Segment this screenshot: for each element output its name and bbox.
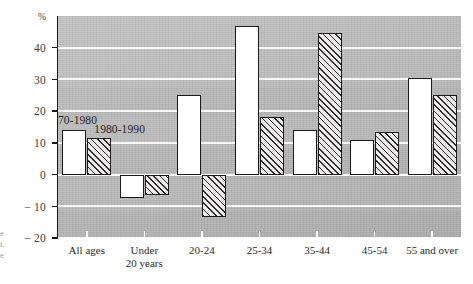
y-tick-group: 0: [51, 174, 58, 176]
edge-caption-line-1: e: [0, 228, 14, 239]
x-axis-label-35-44: 35-44: [304, 244, 330, 257]
y-axis-unit-label: %: [38, 12, 46, 22]
y-tick-label-10: 10: [34, 137, 46, 149]
bar-1970-1980-55 and over: [408, 78, 432, 175]
legend-item-1980-1990: 1980-1990: [94, 123, 145, 135]
x-axis-label-All ages: All ages: [69, 244, 105, 257]
bar-1970-1980-35-44: [293, 130, 317, 174]
bar-1980-1990-20-24: [202, 175, 226, 218]
x-axis-label-20-24: 20-24: [189, 244, 215, 257]
plot-band: [58, 16, 461, 87]
x-axis-label-group: 55 and over: [406, 244, 458, 257]
gridline-20: [58, 110, 461, 112]
x-axis-label-group: 20-24: [189, 244, 215, 257]
x-tick-25-34: [259, 231, 261, 238]
x-tick-55 and over: [431, 231, 433, 238]
gridline-40: [58, 47, 461, 49]
bar-1980-1990-Under 20 years: [145, 175, 169, 196]
bar-1980-1990-25-34: [260, 117, 284, 174]
x-axis-label-25-34: 25-34: [247, 244, 273, 257]
y-tick-group: 40: [51, 47, 58, 49]
x-axis-label-Under 20 years-line2: 20 years: [126, 257, 163, 270]
y-tick-label-20: 20: [34, 105, 46, 117]
bar-1970-1980-25-34: [235, 26, 259, 175]
bar-1970-1980-20-24: [177, 95, 201, 174]
y-tick-group: 20: [51, 110, 58, 112]
x-axis-label-group: 45-54: [362, 244, 388, 257]
y-tick-label-0: 0: [40, 169, 46, 181]
x-tick-45-54: [374, 231, 376, 238]
x-axis-label-Under 20 years: Under: [126, 244, 163, 257]
x-tick-All ages: [86, 231, 88, 238]
x-tick-Under 20 years: [144, 231, 146, 238]
x-axis-label-55 and over: 55 and over: [406, 244, 458, 257]
bar-1980-1990-35-44: [318, 33, 342, 174]
bar-1980-1990-55 and over: [433, 95, 457, 174]
edge-caption-line-2: t.: [0, 239, 14, 250]
gridline-30: [58, 78, 461, 80]
bar-chart-figure: 403020100− 10− 20% 1970-1980 1980-1990 A…: [0, 0, 473, 284]
y-tick-group: 30: [51, 79, 58, 81]
y-tick-label-40: 40: [34, 42, 46, 54]
y-tick-group: − 10: [51, 206, 58, 208]
y-tick-group: − 20: [51, 237, 58, 239]
bar-1980-1990-45-54: [375, 132, 399, 175]
bar-1970-1980-45-54: [350, 140, 374, 175]
y-tick-group: 10: [51, 142, 58, 144]
gridline--10: [58, 205, 461, 207]
x-tick-20-24: [201, 231, 203, 238]
y-tick-label--20: − 20: [24, 232, 46, 244]
y-tick-label-30: 30: [34, 74, 46, 86]
edge-caption-fragment: e t. e: [0, 228, 14, 261]
y-tick-label--10: − 10: [24, 201, 46, 213]
bar-1970-1980-Under 20 years: [120, 175, 144, 199]
bar-1980-1990-All ages: [87, 138, 111, 174]
x-axis-label-group: 35-44: [304, 244, 330, 257]
x-axis-label-group: 25-34: [247, 244, 273, 257]
bar-1970-1980-All ages: [62, 130, 86, 174]
x-tick-35-44: [316, 231, 318, 238]
plot-area: 1970-1980 1980-1990: [58, 16, 461, 238]
x-axis-label-group: All ages: [69, 244, 105, 257]
legend-item-1970-1980: 1970-1980: [58, 114, 97, 126]
edge-caption-line-3: e: [0, 250, 14, 261]
x-axis-label-group: Under20 years: [126, 244, 163, 270]
x-axis-label-45-54: 45-54: [362, 244, 388, 257]
